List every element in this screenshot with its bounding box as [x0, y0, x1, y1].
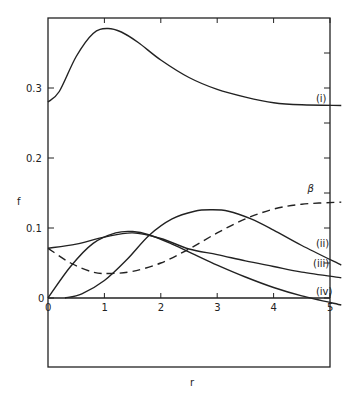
x-tick-label: 1 — [101, 302, 107, 313]
x-tick-label: 0 — [45, 302, 51, 313]
x-tick-label: 3 — [214, 302, 220, 313]
curve-label: (iii) — [313, 258, 329, 269]
y-tick-label: 0.3 — [26, 83, 42, 94]
chart: 01234500.10.20.3 (i)(ii)(iii)(iv)β f r — [0, 0, 347, 404]
curve-label: β — [306, 183, 314, 194]
y-tick-label: 0.1 — [26, 223, 42, 234]
curve-i — [48, 28, 341, 105]
curve-label: (i) — [316, 93, 327, 104]
curve-β — [48, 202, 341, 273]
y-tick-label: 0.2 — [26, 153, 42, 164]
labels: (i)(ii)(iii)(iv)β — [306, 93, 332, 297]
y-tick-label: 0 — [38, 293, 44, 304]
plot-frame — [48, 18, 330, 367]
y-axis-label: f — [17, 196, 21, 207]
x-axis-label: r — [190, 377, 195, 388]
curve-label: (ii) — [316, 238, 329, 249]
x-tick-label: 2 — [158, 302, 164, 313]
curves — [48, 28, 341, 305]
curve-label: (iv) — [316, 286, 333, 297]
curve-ii — [65, 210, 341, 298]
x-tick-label: 4 — [271, 302, 277, 313]
